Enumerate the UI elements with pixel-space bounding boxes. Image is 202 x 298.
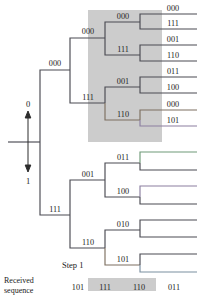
- leaf-label-3: 001: [167, 35, 179, 44]
- tier2-label-b: 111: [82, 93, 94, 102]
- step-caption: Step 1: [62, 260, 84, 270]
- edge-root-upper: [40, 70, 70, 142]
- leaf-label-5: 011: [167, 67, 179, 76]
- edge-t4-6b: [140, 197, 197, 204]
- edge-t4-6a: [140, 186, 197, 197]
- tier3-label-2: 111: [117, 45, 129, 54]
- tier1-label-lower: 111: [49, 205, 61, 214]
- shaded-region-upper: [88, 10, 162, 142]
- edge-t4-7b: [140, 230, 197, 237]
- arrow-up-icon: [25, 111, 31, 118]
- edge-t4-8b: [140, 265, 197, 272]
- edge-t3-7: [105, 230, 140, 248]
- tier3-label-3: 001: [117, 77, 129, 86]
- input-label-zero: 0: [26, 99, 30, 109]
- tier2-label-d: 110: [82, 238, 94, 247]
- received-word-3: 110: [133, 283, 145, 292]
- edge-t4-7a: [140, 220, 197, 230]
- decoding-tree-diagram: 0 1 000 111 000 111 001 110 000 111 001: [0, 0, 202, 298]
- edge-t4-8a: [140, 254, 197, 265]
- received-word-4: 011: [168, 283, 180, 292]
- received-label-line1: Received: [4, 276, 34, 285]
- leaf-label-7: 000: [167, 100, 179, 109]
- received-word-1: 101: [72, 283, 84, 292]
- leaf-label-4: 110: [167, 51, 179, 60]
- tier3-label-4: 110: [117, 110, 129, 119]
- leaf-label-8: 101: [167, 116, 179, 125]
- leaf-label-6: 100: [167, 83, 179, 92]
- tier3-label-8: 101: [117, 255, 129, 264]
- tier1-label-upper: 000: [49, 59, 61, 68]
- edge-t4-5b: [140, 163, 197, 170]
- arrow-down-icon: [25, 165, 31, 172]
- tier3-label-5: 011: [117, 153, 129, 162]
- leaf-label-2: 111: [167, 19, 179, 28]
- tier2-label-a: 000: [82, 27, 94, 36]
- leaf-label-1: 000: [167, 4, 179, 13]
- received-word-2: 111: [99, 283, 111, 292]
- figure-canvas: 0 1 000 111 000 111 001 110 000 111 001: [0, 0, 202, 298]
- edge-t3-5: [105, 163, 140, 180]
- tier3-label-1: 000: [117, 12, 129, 21]
- received-label-line2: sequence: [4, 286, 34, 295]
- tier3-label-7: 010: [117, 220, 129, 229]
- tier2-label-c: 001: [82, 170, 94, 179]
- edge-t4-5a: [140, 152, 197, 163]
- tier3-label-6: 100: [117, 187, 129, 196]
- edge-t2-c: [70, 180, 105, 215]
- input-label-one: 1: [26, 176, 30, 186]
